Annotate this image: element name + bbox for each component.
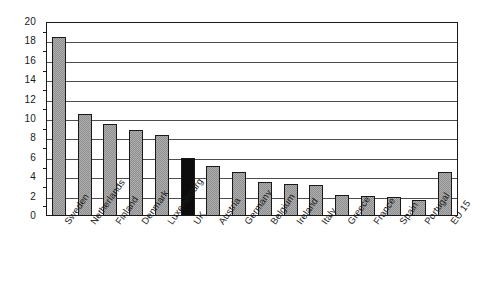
y-tick-label: 8 (30, 133, 36, 143)
y-tick-label: 2 (30, 192, 36, 202)
bar-chart: 02468101214161820 SwedenNetherlandsFinla… (0, 0, 481, 282)
y-tick-label: 0 (30, 211, 36, 221)
bar (206, 166, 220, 216)
x-axis-labels: SwedenNetherlandsFinlandDenmarkLuxembour… (46, 216, 458, 282)
y-tick-label: 18 (24, 36, 36, 46)
y-axis: 02468101214161820 (0, 22, 42, 216)
y-tick-label: 6 (30, 153, 36, 163)
y-tick-label: 12 (24, 95, 36, 105)
y-tick-label: 16 (24, 56, 36, 66)
y-tick-label: 10 (24, 114, 36, 124)
y-tick-label: 4 (30, 172, 36, 182)
y-tick-label: 20 (24, 17, 36, 27)
bars-layer (46, 22, 458, 216)
y-tick-label: 14 (24, 75, 36, 85)
bar (52, 37, 66, 216)
